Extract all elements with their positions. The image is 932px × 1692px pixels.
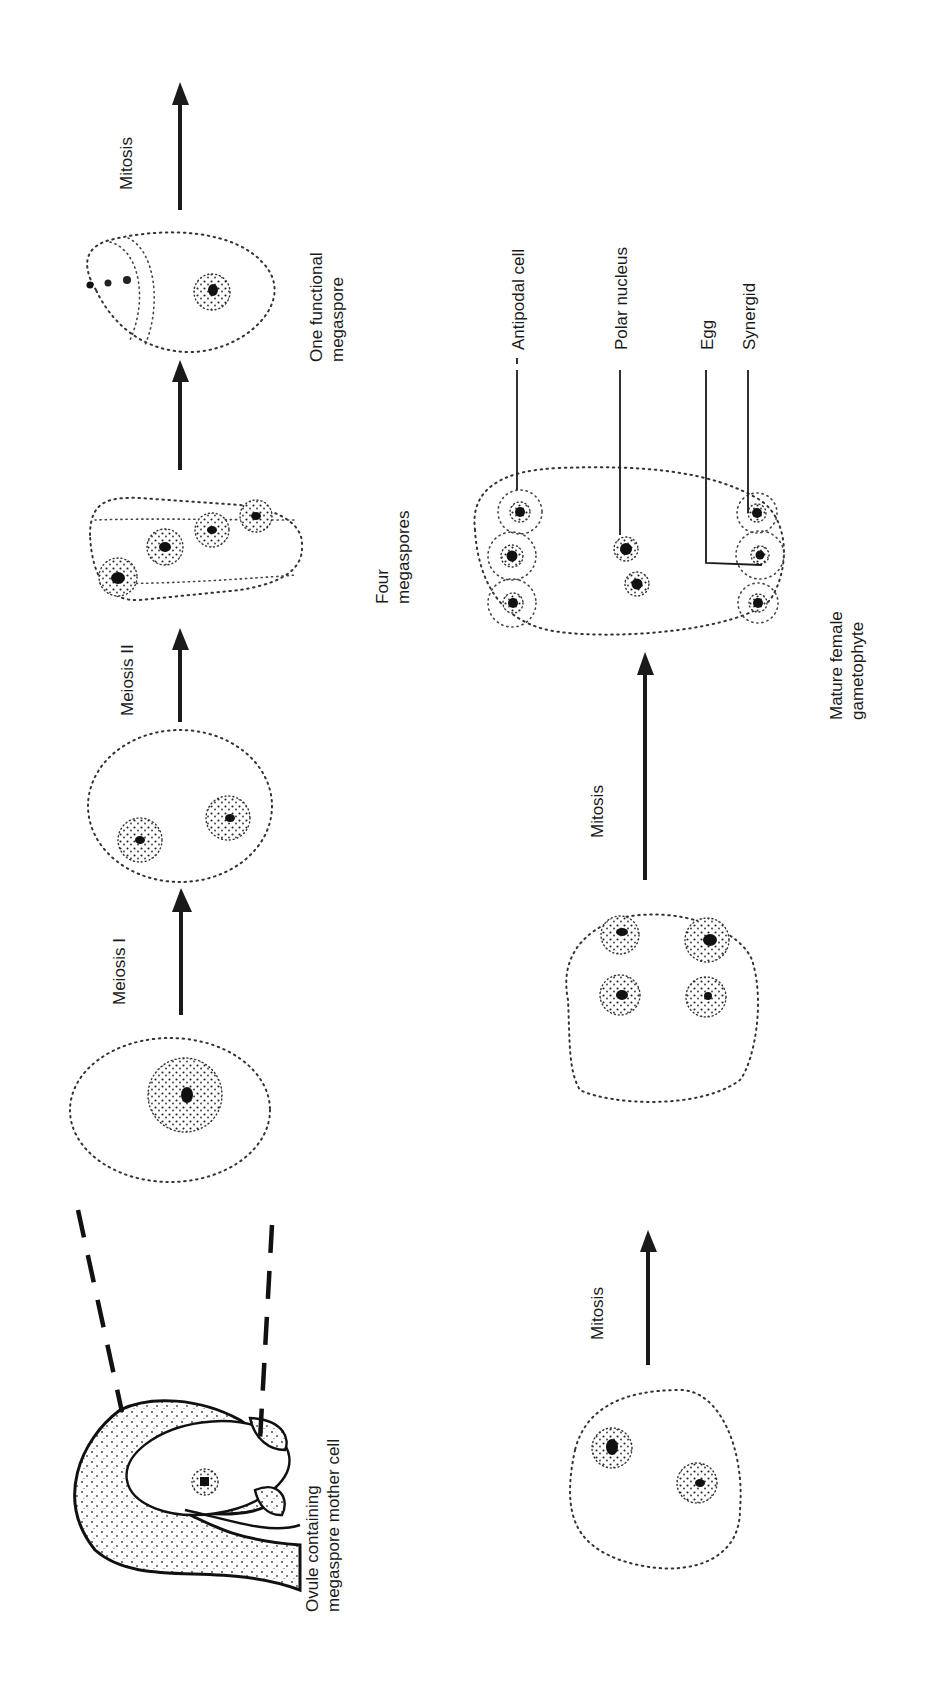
label-synergid: Synergid (740, 283, 759, 350)
megagametophyte-development-figure: Ovule containing megaspore mother cell M… (0, 0, 932, 1692)
label-ovule: Ovule containing megaspore mother cell (303, 1439, 343, 1612)
mature-female-gametophyte (474, 467, 784, 634)
label-meiosis-2: Meiosis II (118, 644, 137, 716)
ovule-drawing (75, 1401, 300, 1590)
megaspore-mother-cell (70, 1038, 270, 1182)
label-mitosis-1: Mitosis (588, 1287, 607, 1340)
arrow-mitosis-1 (640, 1230, 657, 1365)
label-four-megaspores: Four megaspores (373, 510, 413, 604)
label-polar-nucleus: Polar nucleus (612, 247, 631, 350)
diagram-canvas: Ovule containing megaspore mother cell M… (0, 0, 932, 1692)
label-mature-gametophyte: Mature female gametophyte (827, 607, 867, 720)
label-mitosis-2: Mitosis (588, 785, 607, 838)
arrow-meiosis-1 (172, 888, 192, 1015)
label-antipodal-cell: Antipodal cell (509, 249, 528, 350)
expansion-line-left (78, 1210, 122, 1412)
arrow-to-functional (172, 360, 189, 470)
label-egg: Egg (698, 320, 717, 350)
arrow-mitosis-top (172, 82, 189, 210)
label-meiosis-1: Meiosis I (110, 938, 129, 1005)
callout-egg (706, 370, 762, 565)
expansion-line-right (260, 1225, 272, 1440)
label-mitosis-top: Mitosis (117, 137, 136, 190)
four-nucleate-cell (566, 914, 758, 1101)
arrow-mitosis-2 (637, 652, 654, 880)
label-functional-megaspore: One functional megaspore (307, 248, 347, 362)
two-nucleate-cell-outline (570, 1390, 741, 1568)
four-megaspores (90, 498, 302, 600)
functional-megaspore (87, 232, 275, 352)
dyad-cell (88, 730, 272, 882)
arrow-meiosis-2 (172, 628, 189, 722)
